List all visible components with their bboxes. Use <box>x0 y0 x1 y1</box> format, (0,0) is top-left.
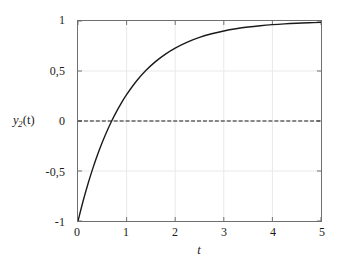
data-curve <box>78 22 321 221</box>
x-axis-label: t <box>197 243 200 258</box>
plot-canvas <box>78 21 321 221</box>
plot-area <box>77 20 322 222</box>
x-tick-label-0: 0 <box>74 226 80 238</box>
y-axis-label: y2(t) <box>13 113 35 129</box>
y-tick-label-1: 1 <box>59 14 65 26</box>
x-tick-label-2: 2 <box>172 226 178 238</box>
figure: y2(t) 1 0,5 0 -0,5 -1 0 1 2 3 4 5 t <box>0 0 342 272</box>
y-tick-label-0: 0 <box>59 115 65 127</box>
x-tick-label-3: 3 <box>221 226 227 238</box>
y-axis-label-argument: (t) <box>23 113 35 127</box>
x-tick-label-1: 1 <box>123 226 129 238</box>
y-tick-label-neg-1: -1 <box>55 216 65 228</box>
x-tick-label-4: 4 <box>270 226 276 238</box>
x-tick-label-5: 5 <box>319 226 325 238</box>
y-tick-label-0-5: 0,5 <box>50 65 65 77</box>
y-tick-label-neg-0-5: -0,5 <box>46 166 65 178</box>
